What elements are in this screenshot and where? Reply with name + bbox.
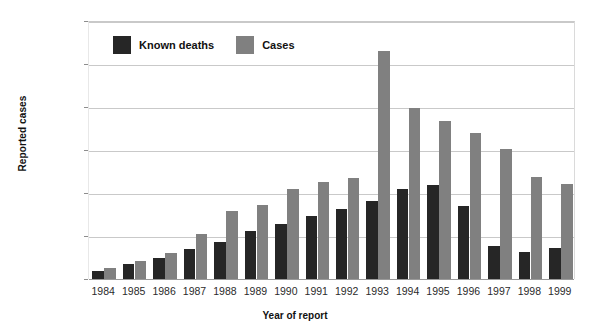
bar-known-deaths-1986 xyxy=(153,258,165,280)
bar-known-deaths-1993 xyxy=(366,201,378,279)
x-tick-label-1987: 1987 xyxy=(179,285,209,297)
bar-known-deaths-1992 xyxy=(336,209,348,279)
x-tick-label-1989: 1989 xyxy=(240,285,270,297)
y-tick-mark xyxy=(84,150,88,151)
bar-group-1987 xyxy=(184,22,208,279)
x-tick-label-1997: 1997 xyxy=(484,285,514,297)
bar-cases-1995 xyxy=(439,121,451,279)
x-tick-label-1999: 1999 xyxy=(545,285,575,297)
bars-layer xyxy=(89,22,574,279)
bar-group-1984 xyxy=(92,22,116,279)
x-tick-label-1994: 1994 xyxy=(392,285,422,297)
x-tick-label-1996: 1996 xyxy=(453,285,483,297)
bar-known-deaths-1996 xyxy=(458,206,470,279)
x-tick-label-1985: 1985 xyxy=(118,285,148,297)
bar-known-deaths-1991 xyxy=(306,216,318,279)
legend-label: Cases xyxy=(262,39,294,51)
bar-known-deaths-1994 xyxy=(397,189,409,279)
y-tick-mark xyxy=(84,193,88,194)
bar-group-1996 xyxy=(458,22,482,279)
y-axis-title: Reported cases xyxy=(17,54,28,214)
x-tick-label-1986: 1986 xyxy=(149,285,179,297)
legend-label: Known deaths xyxy=(139,39,214,51)
bar-known-deaths-1987 xyxy=(184,249,196,279)
bar-group-1998 xyxy=(519,22,543,279)
bar-cases-1987 xyxy=(196,234,208,279)
bar-group-1990 xyxy=(275,22,299,279)
legend-entry-cases: Cases xyxy=(236,36,294,54)
bar-known-deaths-1995 xyxy=(427,185,439,279)
bar-known-deaths-1997 xyxy=(488,246,500,279)
chart-legend: Known deathsCases xyxy=(113,36,295,54)
bar-known-deaths-1984 xyxy=(92,271,104,279)
bar-cases-1986 xyxy=(165,253,177,279)
bar-group-1988 xyxy=(214,22,238,279)
bar-cases-1993 xyxy=(378,51,390,279)
y-tick-mark xyxy=(84,21,88,22)
bar-cases-1997 xyxy=(500,149,512,279)
x-tick-label-1984: 1984 xyxy=(88,285,118,297)
bar-cases-1996 xyxy=(470,133,482,279)
gridline-0 xyxy=(89,279,574,280)
bar-group-1986 xyxy=(153,22,177,279)
bar-cases-1999 xyxy=(561,184,573,279)
x-tick-label-1988: 1988 xyxy=(210,285,240,297)
legend-swatch-known-deaths xyxy=(113,36,131,54)
bar-group-1997 xyxy=(488,22,512,279)
bar-group-1995 xyxy=(427,22,451,279)
bar-chart: Reported cases 020,00040,00060,00080,000… xyxy=(0,0,590,336)
bar-cases-1991 xyxy=(318,182,330,279)
bar-cases-1992 xyxy=(348,178,360,279)
bar-known-deaths-1985 xyxy=(123,264,135,279)
y-tick-mark xyxy=(84,64,88,65)
x-tick-label-1998: 1998 xyxy=(514,285,544,297)
bar-known-deaths-1990 xyxy=(275,224,287,279)
bar-known-deaths-1999 xyxy=(549,248,561,279)
bar-cases-1988 xyxy=(226,211,238,279)
plot-area xyxy=(88,21,575,279)
bar-cases-1985 xyxy=(135,261,147,279)
legend-swatch-cases xyxy=(236,36,254,54)
bar-group-1989 xyxy=(245,22,269,279)
x-axis-title: Year of report xyxy=(0,310,590,321)
bar-group-1992 xyxy=(336,22,360,279)
bar-known-deaths-1998 xyxy=(519,252,531,279)
bar-cases-1998 xyxy=(531,177,543,279)
bar-group-1991 xyxy=(306,22,330,279)
bar-group-1985 xyxy=(123,22,147,279)
bar-cases-1989 xyxy=(257,205,269,279)
x-tick-label-1990: 1990 xyxy=(271,285,301,297)
x-tick-label-1995: 1995 xyxy=(423,285,453,297)
bar-cases-1990 xyxy=(287,189,299,279)
y-tick-mark xyxy=(84,236,88,237)
bar-cases-1994 xyxy=(409,108,421,279)
x-tick-label-1992: 1992 xyxy=(332,285,362,297)
y-tick-mark xyxy=(84,107,88,108)
x-tick-label-1993: 1993 xyxy=(362,285,392,297)
bar-group-1993 xyxy=(366,22,390,279)
y-tick-mark xyxy=(84,279,88,280)
bar-group-1994 xyxy=(397,22,421,279)
bar-cases-1984 xyxy=(104,268,116,279)
bar-known-deaths-1989 xyxy=(245,231,257,279)
legend-entry-known-deaths: Known deaths xyxy=(113,36,214,54)
x-tick-label-1991: 1991 xyxy=(301,285,331,297)
bar-known-deaths-1988 xyxy=(214,242,226,279)
bar-group-1999 xyxy=(549,22,573,279)
